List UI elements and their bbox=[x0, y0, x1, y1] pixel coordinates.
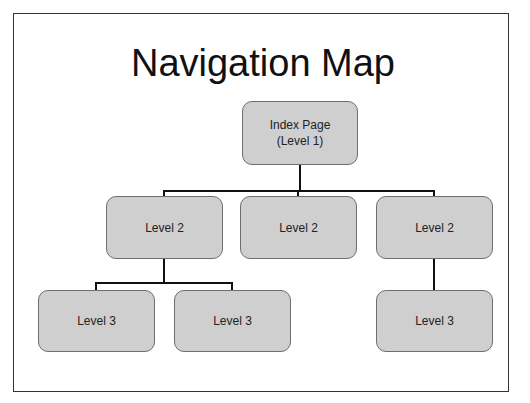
connector-to-l3-mid bbox=[231, 282, 233, 290]
connector-l2left-down bbox=[163, 259, 165, 283]
node-level2-mid[interactable]: Level 2 bbox=[240, 196, 357, 259]
node-level3-left[interactable]: Level 3 bbox=[38, 290, 155, 352]
node-label: Level 3 bbox=[77, 313, 116, 329]
node-label: Level 3 bbox=[415, 313, 454, 329]
connector-to-l3-left bbox=[95, 282, 97, 290]
connector-index-down bbox=[299, 165, 301, 192]
node-label: Level 2 bbox=[415, 220, 454, 236]
node-level2-left[interactable]: Level 2 bbox=[106, 196, 223, 259]
node-label: Level 2 bbox=[279, 220, 318, 236]
node-level3-right[interactable]: Level 3 bbox=[376, 290, 493, 352]
node-label: Level 3 bbox=[213, 313, 252, 329]
node-level2-right[interactable]: Level 2 bbox=[376, 196, 493, 259]
connector-level2-bus bbox=[163, 190, 435, 192]
diagram-title: Navigation Map bbox=[0, 42, 526, 85]
node-index-label: Index Page bbox=[270, 117, 331, 133]
connector-l2right-to-l3right bbox=[433, 259, 435, 290]
connector-level3-bus bbox=[95, 282, 233, 284]
node-level3-mid[interactable]: Level 3 bbox=[174, 290, 291, 352]
node-index-page[interactable]: Index Page (Level 1) bbox=[242, 101, 358, 165]
node-label: Level 2 bbox=[145, 220, 184, 236]
node-index-sublabel: (Level 1) bbox=[270, 133, 331, 149]
